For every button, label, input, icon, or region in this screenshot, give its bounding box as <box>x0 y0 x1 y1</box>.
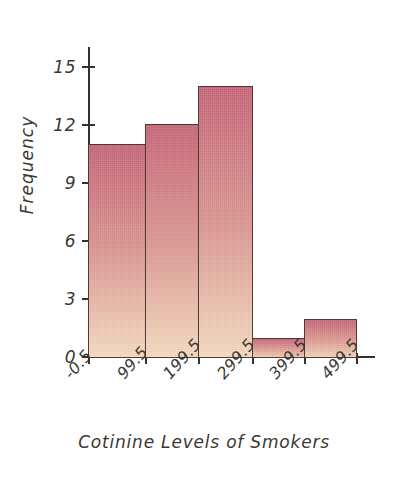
bar-group <box>0 0 408 486</box>
bar-bin-3 <box>198 86 253 358</box>
y-axis-title: Frequency <box>17 100 37 230</box>
histogram-chart: 15 12 9 6 3 0 -0.5 99.5 199.5 299.5 399.… <box>0 0 408 486</box>
x-axis-title: Cotinine Levels of Smokers <box>0 432 408 452</box>
bar-bin-2 <box>145 124 199 358</box>
bar-bin-1 <box>88 144 146 358</box>
